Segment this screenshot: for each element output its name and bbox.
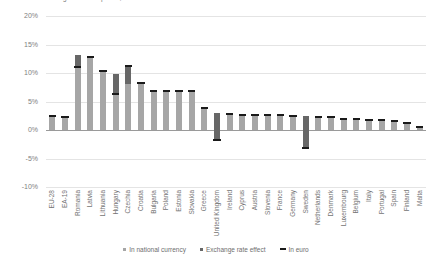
- bar-national-currency: [265, 115, 271, 130]
- x-axis-label: Poland: [163, 190, 170, 210]
- bar-group: [87, 16, 93, 187]
- bar-national-currency: [239, 115, 245, 130]
- marker-in-euro: [137, 82, 144, 84]
- x-axis-label: Czechia: [125, 190, 132, 213]
- bar-national-currency: [163, 91, 169, 130]
- x-axis-label: Bulgaria: [151, 190, 158, 214]
- bar-group: [328, 16, 334, 187]
- x-axis-label: EA-19: [62, 190, 69, 208]
- bar-group: [138, 16, 144, 187]
- bar-national-currency: [404, 123, 410, 130]
- y-axis-label: 5%: [28, 98, 38, 106]
- marker-in-euro: [416, 126, 423, 128]
- chart-legend: In national currency Exchange rate effec…: [0, 243, 432, 255]
- bar-national-currency: [176, 91, 182, 130]
- x-axis-label: Luxembourg: [341, 190, 348, 226]
- bar-group: [303, 16, 309, 187]
- plot-area: [46, 16, 426, 187]
- marker-in-euro: [378, 119, 385, 121]
- bar-national-currency: [151, 91, 157, 130]
- bar-national-currency: [252, 115, 258, 130]
- bar-group: [227, 16, 233, 187]
- x-axis-label: Estonia: [176, 190, 183, 212]
- bar-national-currency: [341, 119, 347, 130]
- marker-in-euro: [403, 122, 410, 124]
- x-axis-label: Latvia: [87, 190, 94, 207]
- bar-group: [62, 16, 68, 187]
- gridline: [46, 187, 426, 188]
- legend-swatch-in-euro: [280, 248, 286, 250]
- legend-label-in-euro: In euro: [289, 246, 309, 253]
- bar-exchange-rate-effect: [113, 74, 119, 94]
- bar-national-currency: [379, 120, 385, 130]
- legend-item-in-euro: In euro: [280, 246, 309, 253]
- bar-group: [366, 16, 372, 187]
- marker-in-euro: [315, 116, 322, 118]
- marker-in-euro: [150, 90, 157, 92]
- x-axis-label: Italy: [366, 190, 373, 202]
- y-axis-label: 15%: [24, 41, 38, 49]
- x-axis-label: Malta: [417, 190, 424, 206]
- bar-group: [290, 16, 296, 187]
- x-axis-label: Slovenia: [265, 190, 272, 215]
- x-axis-label: Croatia: [138, 190, 145, 211]
- bar-group: [315, 16, 321, 187]
- marker-in-euro: [175, 90, 182, 92]
- x-axis-label: Greece: [201, 190, 208, 211]
- bar-national-currency: [189, 91, 195, 130]
- bar-national-currency: [366, 120, 372, 130]
- legend-item-national-currency: In national currency: [123, 246, 186, 253]
- x-axis-label: France: [277, 190, 284, 210]
- marker-in-euro: [74, 66, 81, 68]
- bar-national-currency: [328, 117, 334, 130]
- marker-in-euro: [239, 114, 246, 116]
- bar-series-group: [46, 16, 426, 187]
- y-axis-label: 0%: [28, 126, 38, 134]
- bar-group: [100, 16, 106, 187]
- x-axis-label: Germany: [290, 190, 297, 217]
- bar-exchange-rate-effect: [303, 116, 309, 148]
- marker-in-euro: [99, 70, 106, 72]
- x-axis-tick-labels: EU-28EA-19RomaniaLatviaLithuaniaHungaryC…: [0, 190, 432, 246]
- marker-in-euro: [213, 139, 220, 141]
- bar-exchange-rate-effect: [125, 66, 131, 84]
- bar-national-currency: [201, 108, 207, 130]
- bar-group: [265, 16, 271, 187]
- bar-national-currency: [49, 116, 55, 130]
- marker-in-euro: [163, 90, 170, 92]
- bar-national-currency: [87, 57, 93, 130]
- bar-group: [252, 16, 258, 187]
- bar-group: [214, 16, 220, 187]
- bar-national-currency: [391, 121, 397, 130]
- y-axis-label: -5%: [26, 155, 38, 163]
- legend-swatch-national-currency: [123, 248, 126, 251]
- bar-group: [189, 16, 195, 187]
- marker-in-euro: [112, 93, 119, 95]
- bar-national-currency: [125, 84, 131, 130]
- bar-group: [163, 16, 169, 187]
- legend-swatch-exchange-rate-effect: [200, 248, 203, 251]
- marker-in-euro: [251, 114, 258, 116]
- bar-group: [151, 16, 157, 187]
- y-axis-label: 20%: [24, 12, 38, 20]
- marker-in-euro: [87, 56, 94, 58]
- bar-group: [201, 16, 207, 187]
- marker-in-euro: [188, 90, 195, 92]
- marker-in-euro: [302, 147, 309, 149]
- bar-group: [239, 16, 245, 187]
- marker-in-euro: [327, 116, 334, 118]
- x-axis-label: Belgium: [353, 190, 360, 213]
- bar-national-currency: [277, 115, 283, 130]
- x-axis-label: Ireland: [227, 190, 234, 210]
- x-axis-label: Cyprus: [239, 190, 246, 211]
- marker-in-euro: [125, 65, 132, 67]
- bar-group: [75, 16, 81, 187]
- bar-national-currency: [100, 71, 106, 130]
- legend-label-exchange-rate-effect: Exchange rate effect: [206, 246, 266, 253]
- marker-in-euro: [264, 114, 271, 116]
- x-axis-label: United Kingdom: [214, 190, 221, 236]
- bar-group: [113, 16, 119, 187]
- x-axis-label: Sweden: [303, 190, 310, 214]
- y-axis-tick-labels: 20%15%10%5%0%-5%-10%: [0, 16, 42, 187]
- y-axis-label: 10%: [24, 69, 38, 77]
